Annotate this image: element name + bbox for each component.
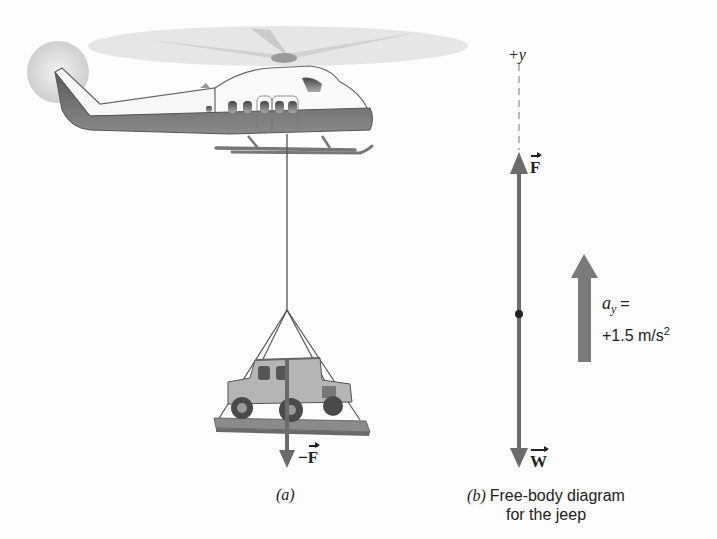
weight-arrow	[510, 314, 528, 468]
jeep-illustration	[214, 310, 370, 436]
acceleration-symbol-line: ay =	[602, 292, 670, 320]
jeep-point-dot	[515, 310, 523, 318]
force-vector-symbol: F	[308, 448, 318, 468]
physics-figure: −F (a) +y F W ay = +1.5 m/s2 (b) Free-bo…	[0, 0, 717, 539]
upward-force-label: F	[530, 158, 540, 178]
axis-label-plus-y: +y	[508, 46, 526, 64]
neg-force-label: −F	[298, 448, 318, 468]
acceleration-arrow	[571, 254, 598, 362]
figure-graphics	[0, 0, 717, 539]
weight-label: W	[530, 452, 547, 472]
caption-b: (b) Free-body diagram for the jeep	[456, 486, 636, 524]
acceleration-label: ay = +1.5 m/s2	[602, 292, 670, 348]
upward-force-arrow	[510, 152, 528, 314]
helicopter-illustration	[27, 26, 468, 153]
caption-a: (a)	[276, 486, 295, 504]
acceleration-value: +1.5 m/s2	[602, 320, 670, 347]
